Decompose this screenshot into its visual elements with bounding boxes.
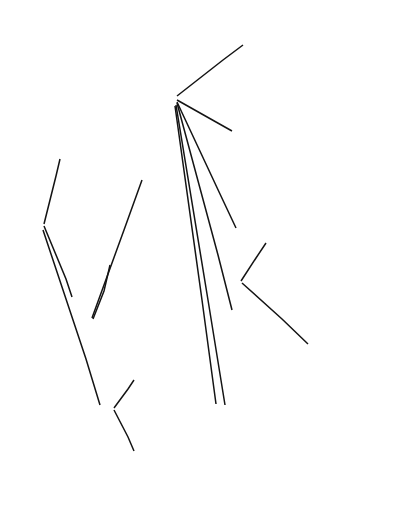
edge-layer	[0, 0, 408, 528]
edge-prepare-to-move	[114, 410, 134, 451]
edge-tile-to-add-one	[177, 45, 243, 96]
edge-prepare-to-zero	[114, 380, 134, 408]
mindmap-canvas	[0, 0, 408, 528]
edge-root-to-parity-note	[44, 159, 60, 224]
edge-root-to-transform	[44, 226, 72, 297]
edge-tile-to-swap	[177, 100, 232, 131]
edge-find-to-loop-until	[242, 283, 308, 344]
edge-find-to-advance	[241, 243, 266, 281]
edge-tile-to-if-not-equal-b	[175, 106, 216, 404]
edge-transform-to-tile	[92, 180, 142, 318]
